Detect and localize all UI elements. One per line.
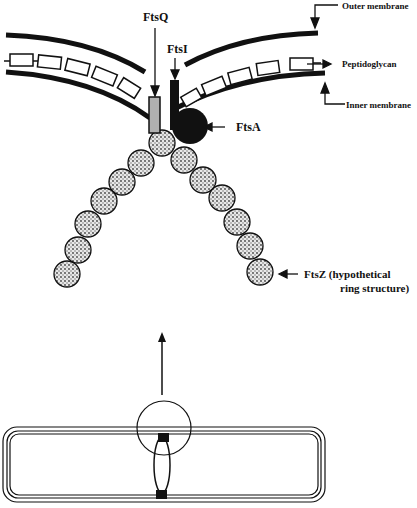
outer-membrane-label: Outer membrane [342,1,409,11]
ftsz-ring [54,130,273,287]
divisome-diagram: FtsQ FtsI FtsA Outer membrane Peptidogly… [0,0,417,508]
septum-bottom [156,490,167,499]
inner-membrane [6,72,325,118]
ftsq-label: FtsQ [143,10,168,24]
ftsz-label-line1: FtsZ (hypothetical [304,268,390,281]
ftsi-label: FtsI [167,42,188,56]
ftsz-ring-ellipse [154,437,170,493]
ftsz-label-line2: ring structure) [340,282,409,295]
magnify-arrow [158,332,166,395]
peptidoglycan-label: Peptidoglycan [342,59,397,69]
inner-membrane-label: Inner membrane [346,100,411,110]
septum-top [158,433,169,442]
ftsa-label: FtsA [236,120,261,134]
ftsi-protein [170,80,179,130]
ftsq-protein [149,97,160,133]
zoom-circle [137,401,191,455]
